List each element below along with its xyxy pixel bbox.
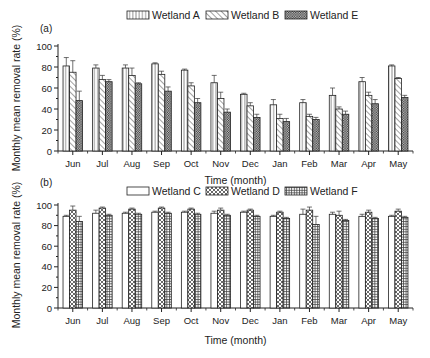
y-tick-label: 20: [41, 282, 52, 293]
panel-label: (b): [40, 177, 52, 188]
bar-group-feb: [300, 207, 320, 308]
x-tick-label: Apr: [361, 315, 376, 326]
x-tick-label: Nov: [212, 158, 229, 169]
bar-group-may: [388, 65, 408, 151]
legend-item-wetland-a: Wetland A: [127, 9, 200, 21]
bar-wetland-a: [329, 95, 336, 151]
x-tick-label: Jan: [272, 315, 287, 326]
x-tick-label: Aug: [124, 158, 141, 169]
bar-group-sep: [152, 207, 172, 308]
bar-group-feb: [300, 100, 320, 151]
bar-group-apr: [359, 210, 379, 308]
bar-group-apr: [359, 78, 379, 152]
bar-wetland-a: [300, 103, 307, 151]
y-tick-label: 80: [41, 220, 52, 231]
x-tick-label: May: [389, 315, 407, 326]
bar-wetland-b: [188, 86, 195, 151]
bar-wetland-e: [254, 117, 261, 151]
bar-wetland-c: [329, 214, 336, 308]
y-tick-label: 100: [36, 41, 52, 52]
legend: Wetland CWetland DWetland F: [127, 185, 358, 197]
x-tick-label: Mar: [331, 158, 347, 169]
x-tick-label: Aug: [124, 315, 141, 326]
bar-wetland-a: [270, 105, 277, 151]
bar-wetland-c: [388, 216, 395, 308]
y-axis-label: Monthly mean removal rate (%): [10, 25, 22, 171]
x-tick-label: Oct: [184, 158, 199, 169]
x-tick-label: Sep: [153, 158, 170, 169]
bar-group-jan: [270, 211, 290, 308]
bar-wetland-b: [306, 116, 313, 151]
y-tick-label: 60: [41, 241, 52, 252]
bar-wetland-a: [122, 68, 129, 151]
y-tick-label: 40: [41, 261, 52, 272]
bar-group-oct: [181, 208, 201, 308]
bar-wetland-d: [336, 215, 343, 308]
bar-wetland-a: [211, 83, 218, 151]
bar-wetland-d: [70, 210, 77, 308]
x-tick-label: Dec: [242, 158, 259, 169]
bar-group-jul: [93, 65, 113, 151]
x-tick-label: Mar: [331, 315, 347, 326]
bar-wetland-e: [194, 103, 201, 151]
x-tick-label: May: [389, 158, 407, 169]
bar-wetland-c: [270, 216, 277, 308]
legend-swatch: [206, 187, 228, 195]
bar-wetland-d: [188, 209, 195, 308]
x-tick-label: Jun: [65, 315, 80, 326]
bar-group-oct: [181, 69, 201, 151]
bar-group-mar: [329, 88, 349, 151]
x-axis-label: Time (month): [204, 334, 266, 346]
bar-group-mar: [329, 211, 349, 308]
bar-group-nov: [211, 208, 231, 308]
x-tick-label: Feb: [301, 158, 317, 169]
bar-wetland-d: [99, 208, 106, 308]
bar-wetland-c: [152, 212, 159, 308]
bar-wetland-b: [277, 118, 284, 151]
panel-label: (a): [40, 23, 52, 34]
x-tick-label: Jan: [272, 158, 287, 169]
bar-group-jan: [270, 100, 290, 151]
y-tick-label: 60: [41, 83, 52, 94]
bar-wetland-d: [365, 212, 372, 308]
bar-wetland-b: [217, 99, 224, 152]
legend-label: Wetland E: [310, 9, 358, 21]
bar-wetland-a: [388, 66, 395, 151]
legend-label: Wetland C: [152, 185, 201, 197]
legend-label: Wetland D: [231, 185, 280, 197]
x-tick-label: Oct: [184, 315, 199, 326]
bar-wetland-a: [241, 94, 248, 151]
bar-wetland-c: [211, 213, 218, 308]
x-tick-label: Feb: [301, 315, 317, 326]
bar-wetland-c: [359, 216, 366, 308]
bar-wetland-f: [194, 214, 201, 308]
bar-wetland-d: [247, 210, 254, 308]
x-tick-label: Sep: [153, 315, 170, 326]
bar-group-aug: [122, 65, 142, 151]
bar-wetland-f: [283, 218, 290, 308]
bar-wetland-e: [165, 91, 172, 151]
bar-wetland-b: [158, 74, 165, 151]
bar-wetland-f: [76, 221, 83, 308]
bar-wetland-a: [93, 68, 100, 151]
bar-group-nov: [211, 75, 231, 151]
bar-wetland-f: [106, 215, 113, 308]
y-tick-label: 100: [36, 200, 52, 211]
bar-wetland-c: [63, 216, 70, 308]
y-tick-label: 20: [41, 125, 52, 136]
x-tick-label: Apr: [361, 158, 376, 169]
legend-swatch: [285, 11, 307, 19]
panel-b: (b)Monthly mean removal rate (%)02040608…: [10, 177, 413, 346]
bar-wetland-d: [217, 210, 224, 308]
bar-wetland-c: [241, 212, 248, 308]
bar-wetland-d: [158, 208, 165, 308]
bar-wetland-e: [135, 84, 142, 151]
bar-wetland-e: [401, 97, 408, 151]
bar-wetland-f: [401, 217, 408, 308]
bar-wetland-e: [342, 114, 349, 151]
bar-wetland-d: [395, 211, 402, 308]
bar-group-sep: [152, 63, 172, 151]
bar-wetland-e: [224, 112, 231, 151]
bar-wetland-b: [395, 79, 402, 151]
legend-label: Wetland F: [310, 185, 358, 197]
